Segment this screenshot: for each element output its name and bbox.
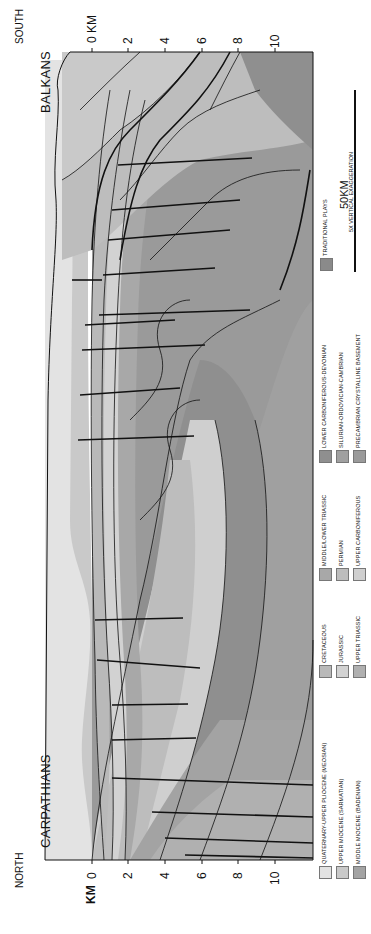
depth-tick-right-8: 8 xyxy=(231,37,245,44)
legend-swatch-silurian xyxy=(336,450,349,463)
legend-label-middle-miocene: MIDDLE MIOCENE (BADENIAN) xyxy=(355,780,361,864)
depth-axis-left-unit: KM xyxy=(84,885,98,904)
depth-tick-4: 4 xyxy=(158,872,172,879)
legend-swatch-permian xyxy=(336,568,349,581)
depth-tick-10: 10 xyxy=(268,872,282,885)
legend-swatch-lower-carboniferous xyxy=(319,450,332,463)
legend-swatch-middle-miocene xyxy=(353,866,366,879)
south-label: SOUTH xyxy=(14,9,25,44)
legend-swatch-upper-triassic xyxy=(353,665,366,678)
depth-tick-2: 2 xyxy=(121,872,135,879)
depth-tick-right-4: 4 xyxy=(158,37,172,44)
carpathians-label: CARPATHIANS xyxy=(38,754,53,848)
legend-label-upper-triassic: UPPER TRIASSIC xyxy=(355,616,361,663)
depth-tick-0: 0 xyxy=(85,872,99,879)
legend-swatch-upper-miocene xyxy=(336,866,349,879)
legend-label-jurassic: JURASSIC xyxy=(338,635,344,663)
balkans-label: BALKANS xyxy=(38,51,53,113)
legend-label-upper-miocene: UPPER MIOCENE (SARMATIAN) xyxy=(338,778,344,864)
legend-label-lower-carboniferous: LOWER CARBONIFEROUS-DEVONIAN xyxy=(321,345,327,448)
depth-tick-8: 8 xyxy=(231,872,245,879)
legend-swatch-quaternary xyxy=(319,866,332,879)
legend-label-permian: PERMIAN xyxy=(338,540,344,566)
north-label: NORTH xyxy=(14,853,25,888)
legend-swatch-middle-lower-triassic xyxy=(319,568,332,581)
legend-label-precambrian: PRECAMBRIAN CRYSTALLINE BASEMENT xyxy=(355,334,361,448)
legend-swatch-upper-carboniferous xyxy=(353,568,366,581)
depth-tick-6: 6 xyxy=(195,872,209,879)
legend-label-cretaceous: CRETACEOUS xyxy=(321,624,327,663)
legend-label-traditional-plays: TRADITIONAL PLAYS xyxy=(322,199,328,256)
legend-label-middle-lower-triassic: MIDDLE/LOWER TRIASSIC xyxy=(321,495,327,566)
depth-tick-right-2: 2 xyxy=(121,37,135,44)
depth-tick-right-10: 10 xyxy=(268,35,282,48)
legend-label-upper-carboniferous: UPPER CARBONIFEROUS xyxy=(355,496,361,566)
legend-label-quaternary: QUATERNARY-UPPER PLIOCENE (MEOSIAN) xyxy=(321,743,327,864)
legend-swatch-traditional-plays xyxy=(320,258,333,271)
legend-swatch-cretaceous xyxy=(319,665,332,678)
legend-label-silurian: SILURIAN-ORDOVICIAN-CAMBRIAN xyxy=(338,352,344,448)
legend-swatch-jurassic xyxy=(336,665,349,678)
cross-section-diagram xyxy=(0,0,371,934)
depth-tick-right-6: 6 xyxy=(195,37,209,44)
scale-bar-sublabel: 5X VERTICAL EXAGGERATION xyxy=(348,152,354,232)
depth-axis-right-unit: 0 KM xyxy=(85,15,99,43)
legend-swatch-precambrian xyxy=(353,450,366,463)
